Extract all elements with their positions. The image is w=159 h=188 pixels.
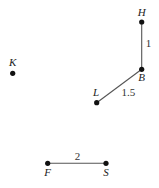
graph-diagram: 1 1.5 2 H B L K F S	[0, 0, 159, 188]
edge-label-f-s: 2	[75, 150, 81, 162]
node-label-l: L	[92, 86, 99, 98]
node-h-dot	[139, 19, 144, 24]
node-k-dot	[10, 71, 15, 76]
node-l-dot	[94, 100, 99, 105]
node-label-h: H	[137, 6, 147, 18]
edge-label-b-l: 1.5	[121, 86, 135, 98]
node-label-f: F	[43, 166, 51, 178]
node-label-b: B	[138, 71, 145, 83]
node-label-s: S	[103, 166, 109, 178]
node-label-k: K	[8, 56, 17, 68]
edge-labels-layer: 1 1.5 2	[75, 37, 152, 162]
edge-label-h-b: 1	[146, 37, 152, 49]
